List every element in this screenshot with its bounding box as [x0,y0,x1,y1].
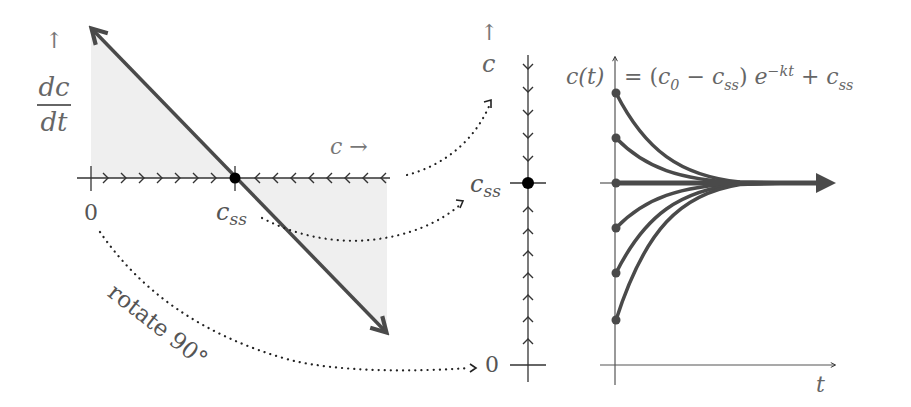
initial-condition-dots [612,89,621,325]
c-axis-label-mid: c [482,52,495,76]
origin-label-left: 0 [84,202,98,224]
phase-line-diagram: ↑ dc dt c → 0 csscss rotate 90° ↑ c css … [0,0,911,407]
arrowhead-css [456,200,463,208]
steady-state-dot-left [230,173,241,184]
map-positive-to-upper [407,104,490,175]
fraction-bar [37,104,71,106]
css-label-left: csscss [216,200,247,228]
arrowhead-origin [470,364,476,372]
right-panel [600,57,835,385]
dcdt-numerator: dc [38,74,69,101]
c-axis-label: c → [330,136,368,158]
curve-c0-low-3 [616,183,790,320]
diagram-canvas [0,0,911,407]
mapping-arrowheads [456,100,491,372]
solution-curves [616,93,790,320]
dcdt-axis-arrow-icon: ↑ [45,30,63,52]
middle-panel [510,55,546,382]
curve-c0-high-1 [616,93,790,183]
t-axis-label: t [816,374,825,396]
map-origin-rotate [100,232,470,370]
dcdt-label: dc dt [37,74,71,136]
css-label-mid: css [470,172,501,200]
formula-rhs: = (c0 − css) e−kt + css = (c0 − css) e^(… [624,64,853,92]
c-axis-arrow-icon: ↑ [480,22,498,44]
origin-label-mid: 0 [485,354,499,376]
steady-state-dot-mid [522,177,534,189]
formula-lhs: c(t) [566,66,604,88]
dcdt-denominator: dt [40,109,67,136]
arrowhead-upper [484,100,491,108]
